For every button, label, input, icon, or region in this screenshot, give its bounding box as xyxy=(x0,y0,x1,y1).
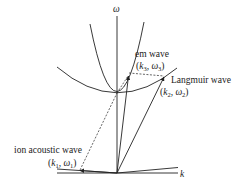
langmuir-point-label: (k2, ω2) xyxy=(160,87,189,98)
omega-axis-label: ω xyxy=(113,4,120,14)
ion-point-label: (k1, ω1) xyxy=(48,158,77,169)
k3-vector-arrow xyxy=(117,76,129,173)
em-wave-label: em wave xyxy=(135,49,169,59)
dashed-k1-to-vertex xyxy=(80,93,117,170)
dispersion-diagram: ω k em wave (k3, ω3) Langmuir wave (k2, … xyxy=(0,0,246,189)
em-point-label: (k3, ω3) xyxy=(136,61,165,72)
k2-vector-arrow xyxy=(117,77,164,173)
k-axis-label: k xyxy=(180,169,185,179)
ion-acoustic-wave-label: ion acoustic wave xyxy=(14,145,82,155)
langmuir-wave-label: Langmuir wave xyxy=(171,75,231,85)
dashed-k3-to-k2 xyxy=(129,73,164,76)
